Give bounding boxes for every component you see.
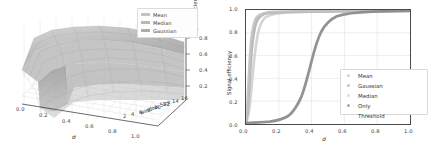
legend-2d[interactable]: Mean Gaussian Median Only Threshold: [340, 69, 428, 115]
legend-swatch-median-icon: [141, 21, 150, 24]
tick-z3d-0: 0.2: [199, 83, 208, 89]
tick-z3d-3: 0.8: [199, 35, 208, 41]
tick-x3d-2: 0.4: [62, 118, 71, 124]
tick-x2d-0: 0.0: [239, 128, 248, 134]
tick-x3d-5: 1.0: [131, 133, 140, 139]
tick-y2d-5: 1.0: [229, 6, 238, 12]
tick-x2d-5: 1.0: [404, 128, 413, 134]
panel-2d-line: 0.0 0.2 0.4 0.6 0.8 1.0 Signal efficienc…: [216, 0, 432, 150]
xlabel-2d: σ: [216, 136, 432, 142]
legend-3d-label-mean: Mean: [153, 11, 167, 19]
tick-z3d-2: 0.6: [199, 51, 208, 57]
tick-y3d-6: 14: [172, 98, 179, 104]
legend-2d-label-median: Median: [358, 91, 378, 101]
tick-y2d-0: 0.0: [229, 122, 238, 128]
panel-3d-surface: 0.0 0.2 0.4 0.6 0.8 1.0 σ 2 4 6 8 10 12 …: [0, 0, 216, 150]
legend-marker-mean-icon: [347, 74, 350, 77]
tick-x2d-1: 0.2: [272, 128, 281, 134]
legend-2d-label-mean: Mean: [358, 71, 373, 81]
tick-x2d-2: 0.4: [305, 128, 314, 134]
legend-swatch-mean-icon: [141, 13, 150, 16]
legend-3d-label-median: Median: [153, 19, 172, 27]
legend-swatch-gaussian-icon: [141, 29, 150, 32]
legend-3d-label-gaussian: Gaussian: [153, 27, 176, 35]
z-tick-marks: [186, 38, 190, 86]
legend-marker-gaussian-icon: [347, 84, 350, 87]
tick-x3d-0: 0.0: [16, 106, 25, 112]
legend-2d-label-only-threshold: Only Threshold: [358, 101, 385, 121]
tick-y2d-1: 0.2: [229, 99, 238, 105]
figure-canvas: 0.0 0.2 0.4 0.6 0.8 1.0 σ 2 4 6 8 10 12 …: [0, 0, 432, 150]
xlabel-3d: σ: [72, 133, 76, 140]
tick-y3d-7: 16: [181, 95, 188, 101]
tick-x2d-3: 0.6: [338, 128, 347, 134]
ylabel-2d: Signal efficiency: [226, 51, 232, 95]
tick-y3d-1: 4: [131, 111, 134, 117]
tick-x3d-4: 0.8: [108, 128, 117, 134]
legend-marker-only-threshold-icon: [347, 104, 350, 107]
legend-marker-median-icon: [347, 94, 350, 97]
tick-x3d-3: 0.6: [85, 123, 94, 129]
legend-2d-label-gaussian: Gaussian: [358, 81, 383, 91]
legend-3d[interactable]: Mean Median Gaussian: [137, 8, 198, 38]
tick-y3d-0: 2: [123, 113, 126, 119]
tick-x3d-1: 0.2: [39, 112, 48, 118]
tick-x2d-4: 0.8: [371, 128, 380, 134]
tick-y2d-4: 0.8: [229, 29, 238, 35]
tick-z3d-1: 0.4: [199, 67, 208, 73]
